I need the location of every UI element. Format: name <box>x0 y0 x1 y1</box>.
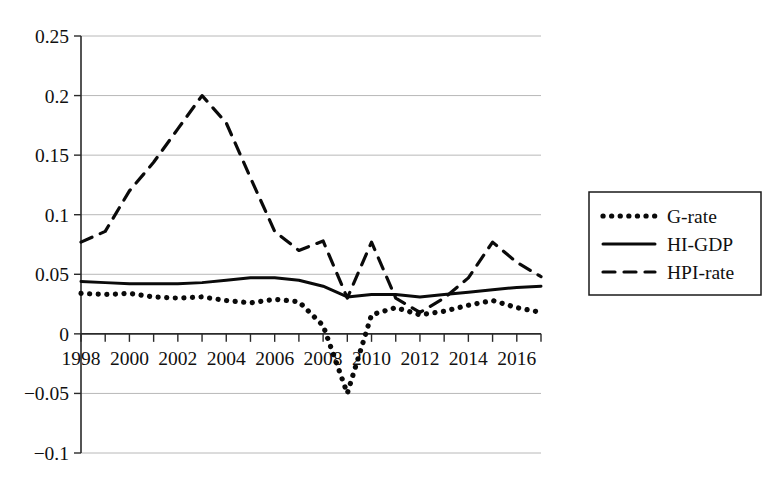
chart-figure: 0.250.20.150.10.050−0.05−0.1199820002002… <box>0 0 773 482</box>
x-tick-label: 2000 <box>110 348 149 369</box>
legend: G-rateHI-GDPHPI-rate <box>589 192 761 295</box>
y-tick-label: 0 <box>59 324 69 345</box>
y-tick-label: 0.2 <box>45 86 69 107</box>
y-tick-label: 0.1 <box>45 205 69 226</box>
x-tick-label: 2006 <box>255 348 294 369</box>
legend-label: G-rate <box>667 206 717 227</box>
legend-label: HI-GDP <box>667 234 733 255</box>
x-tick-label: 2002 <box>158 348 197 369</box>
series-line-hpi-rate <box>81 96 541 313</box>
x-tick-label: 2012 <box>400 348 439 369</box>
y-gridlines: 0.250.20.150.10.050−0.05−0.1 <box>24 26 541 464</box>
series-line-g-rate <box>81 293 541 393</box>
y-tick-label: 0.15 <box>35 145 69 166</box>
y-tick-label: −0.05 <box>24 383 69 404</box>
x-axis: 1998200020022004200620082010201220142016 <box>62 334 542 369</box>
x-tick-label: 2004 <box>207 348 246 369</box>
legend-label: HPI-rate <box>667 262 734 283</box>
x-tick-label: 1998 <box>62 348 101 369</box>
x-tick-label: 2014 <box>449 348 488 369</box>
y-tick-label: −0.1 <box>34 443 69 464</box>
x-tick-label: 2008 <box>304 348 343 369</box>
y-tick-label: 0.25 <box>35 26 69 47</box>
x-tick-label: 2016 <box>497 348 536 369</box>
y-tick-label: 0.05 <box>35 264 69 285</box>
